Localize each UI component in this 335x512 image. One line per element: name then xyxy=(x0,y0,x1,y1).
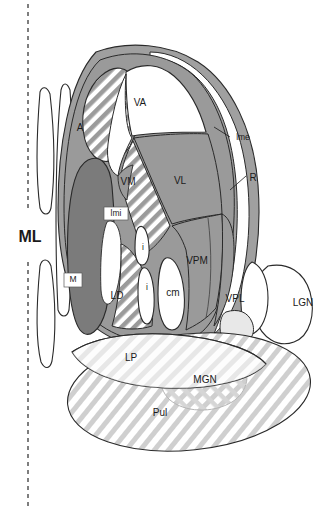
label-ld: LD xyxy=(111,290,124,301)
label-mgn: MGN xyxy=(193,374,216,385)
figure-canvas: ML A VA VM VL lme R lmi M i i cm LD VPM … xyxy=(0,0,335,512)
label-a: A xyxy=(77,122,84,133)
label-i-lower: i xyxy=(146,282,148,292)
label-vpm: VPM xyxy=(186,255,208,266)
label-vl: VL xyxy=(174,175,187,186)
label-vm: VM xyxy=(121,176,136,187)
label-r: R xyxy=(249,172,256,183)
label-va: VA xyxy=(134,97,147,108)
thalamus-diagram-svg: ML A VA VM VL lme R lmi M i i cm LD VPM … xyxy=(0,0,335,512)
label-lmi: lmi xyxy=(111,208,122,218)
label-lp: LP xyxy=(125,352,138,363)
label-m: M xyxy=(69,274,76,284)
label-lme: lme xyxy=(236,132,250,142)
label-vpl: VPL xyxy=(226,293,245,304)
label-pul: Pul xyxy=(153,407,167,418)
label-lgn: LGN xyxy=(293,297,314,308)
label-i-upper: i xyxy=(142,242,144,252)
label-cm: cm xyxy=(166,287,179,298)
label-ml: ML xyxy=(18,228,41,245)
